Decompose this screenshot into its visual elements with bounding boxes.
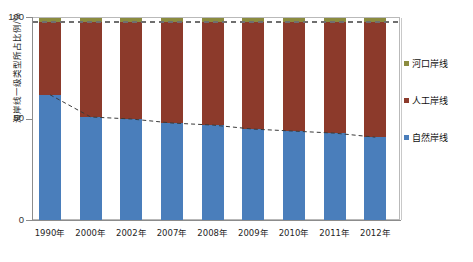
x-axis-tick-label-2002: 2002年 (109, 226, 153, 238)
bar-segment-natural (202, 125, 224, 220)
legend-label: 河口岸线 (412, 57, 448, 70)
bar-group-1990[interactable] (39, 18, 61, 220)
y-axis-tick-label-0: 0 (0, 215, 24, 225)
x-axis-tick-label-2007: 2007年 (150, 226, 194, 238)
bar-segment-artificial (283, 22, 305, 131)
x-axis-tick-label-2008: 2008年 (191, 226, 235, 238)
x-axis-tick-label-2010: 2010年 (272, 226, 316, 238)
legend-item-artificial[interactable]: 人工岸线 (404, 94, 473, 107)
x-axis-line (32, 220, 401, 221)
bar-segment-natural (283, 131, 305, 220)
legend-label: 人工岸线 (412, 94, 448, 107)
bar-group-2000[interactable] (80, 18, 102, 220)
legend-label: 自然岸线 (412, 131, 448, 144)
bar-group-2008[interactable] (202, 18, 224, 220)
bar-group-2012[interactable] (364, 18, 386, 220)
x-axis-tick-label-2000: 2000年 (69, 226, 113, 238)
x-axis-tick-label-2011: 2011年 (313, 226, 357, 238)
bar-segment-artificial (202, 22, 224, 125)
y-axis-tick-100 (26, 17, 32, 18)
x-axis-labels: 1990年 2000年 2002年 2007年 2008年 2009年 2010… (33, 226, 399, 242)
bars-layer (33, 18, 399, 220)
bar-group-2007[interactable] (161, 18, 183, 220)
bar-group-2009[interactable] (242, 18, 264, 220)
bar-segment-natural (120, 119, 142, 220)
bar-segment-artificial (161, 22, 183, 123)
bar-segment-artificial (120, 22, 142, 119)
y-axis-title: 海岸线一级类型所占比例/% (10, 8, 22, 128)
x-axis-tick-label-1990: 1990年 (28, 226, 72, 238)
bar-segment-natural (80, 117, 102, 220)
bar-segment-artificial (242, 22, 264, 129)
legend-item-natural[interactable]: 自然岸线 (404, 131, 473, 144)
bar-segment-natural (364, 137, 386, 220)
y-axis-tick-50 (26, 119, 32, 120)
bar-segment-natural (39, 95, 61, 220)
legend-divider (401, 18, 402, 220)
bar-group-2010[interactable] (283, 18, 305, 220)
bar-segment-artificial (39, 22, 61, 95)
bar-group-2002[interactable] (120, 18, 142, 220)
legend-item-estuary[interactable]: 河口岸线 (404, 57, 473, 70)
stacked-bar-chart: 100 50 0 海岸线一级类型所占比例/% (0, 0, 473, 262)
legend-swatch-icon (404, 98, 409, 103)
bar-segment-natural (161, 123, 183, 220)
x-axis-tick-label-2012: 2012年 (353, 226, 397, 238)
legend-swatch-icon (404, 135, 409, 140)
bar-segment-natural (324, 133, 346, 220)
x-axis-tick-label-2009: 2009年 (231, 226, 275, 238)
chart-legend: 河口岸线 人工岸线 自然岸线 (404, 57, 473, 144)
bar-group-2011[interactable] (324, 18, 346, 220)
bar-segment-artificial (80, 22, 102, 117)
bar-segment-artificial (364, 22, 386, 137)
bar-segment-natural (242, 129, 264, 220)
bar-segment-artificial (324, 22, 346, 133)
legend-swatch-icon (404, 61, 409, 66)
